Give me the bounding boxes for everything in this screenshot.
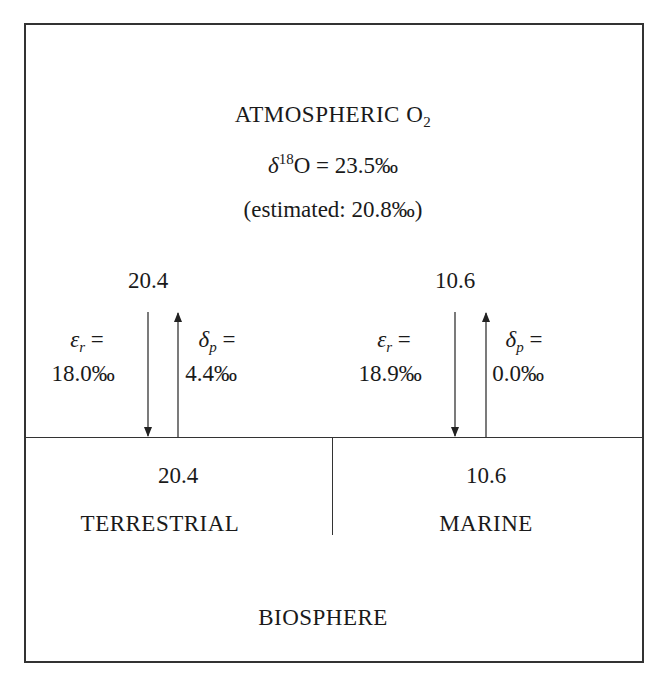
marine-down-arrow-icon [451,312,459,437]
marine-biosphere-value: 10.6 [466,464,506,487]
terrestrial-down-arrow-icon [144,312,152,437]
biosphere-label: BIOSPHERE [258,606,388,629]
flux-arrows [0,0,662,680]
terrestrial-label: TERRESTRIAL [81,512,240,535]
terrestrial-biosphere-value: 20.4 [158,464,198,487]
terrestrial-up-arrow-icon [174,312,182,437]
marine-up-arrow-icon [482,312,490,437]
marine-label: MARINE [439,512,533,535]
